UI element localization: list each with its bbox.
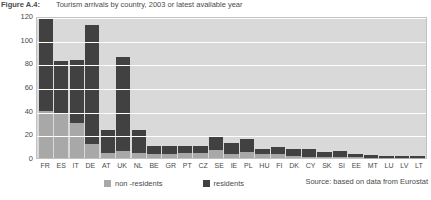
bar-segment-non-residents[interactable] <box>132 153 146 158</box>
non-residents-swatch <box>104 180 111 187</box>
bar-segment-non-residents[interactable] <box>147 154 161 158</box>
x-tick-label: NL <box>131 161 146 173</box>
y-tick-label: 100 <box>20 37 33 45</box>
x-tick-label: BE <box>147 161 162 173</box>
bar-segment-residents[interactable] <box>271 147 285 154</box>
page-title: Tourism arrivals by country, 2003 or lat… <box>56 0 243 10</box>
x-tick-label: CY <box>303 161 318 173</box>
bar-segment-non-residents[interactable] <box>70 123 84 159</box>
bar-segment-residents[interactable] <box>85 25 99 143</box>
bar-segment-non-residents[interactable] <box>240 152 254 158</box>
y-tick-label: 80 <box>25 60 33 68</box>
y-tick-label: 120 <box>20 13 33 21</box>
chart-legend: non -residentsresidents <box>104 177 284 189</box>
bar-segment-non-residents[interactable] <box>162 154 176 158</box>
x-tick-label: PL <box>241 161 255 173</box>
y-tick-label: 40 <box>25 108 33 116</box>
x-tick-label: FR <box>38 161 53 173</box>
bar-segment-non-residents[interactable] <box>224 154 238 158</box>
bar-segment-non-residents[interactable] <box>85 144 99 158</box>
y-tick-label: 60 <box>25 84 33 92</box>
legend-label: residents <box>214 179 244 188</box>
residents-swatch <box>203 180 210 187</box>
bar-segment-non-residents[interactable] <box>255 154 269 158</box>
legend-item-residents[interactable]: residents <box>203 179 244 188</box>
y-tick-label: 0 <box>29 155 33 163</box>
plot-area <box>36 17 427 159</box>
bar-segment-residents[interactable] <box>240 139 254 152</box>
x-tick-label: ES <box>54 161 69 173</box>
figure-container: Figure A.4: Tourism arrivals by country,… <box>0 0 431 200</box>
x-tick-label: AT <box>99 161 113 173</box>
x-tick-label: SK <box>319 161 334 173</box>
bar-segment-non-residents[interactable] <box>101 153 115 158</box>
bar-segment-non-residents[interactable] <box>333 157 347 158</box>
x-tick-label: EE <box>349 161 364 173</box>
x-tick-label: HU <box>257 161 273 173</box>
bar-segment-residents[interactable] <box>302 149 316 157</box>
bar-segment-non-residents[interactable] <box>178 153 192 158</box>
bar-segment-non-residents[interactable] <box>116 151 130 158</box>
bar-segment-residents[interactable] <box>286 149 300 156</box>
x-tick-label: SE <box>212 161 227 173</box>
source-note: Source: based on data from Eurostat <box>305 177 428 186</box>
x-tick-label: LV <box>398 161 412 173</box>
gridline <box>37 18 426 19</box>
x-tick-label: SI <box>335 161 347 173</box>
gridline <box>37 89 426 90</box>
y-tick-label: 20 <box>25 131 33 139</box>
bar-segment-residents[interactable] <box>101 130 115 154</box>
bar-segment-residents[interactable] <box>209 136 223 150</box>
bar-segment-residents[interactable] <box>162 146 176 154</box>
x-tick-label: IT <box>70 161 82 173</box>
bar-segment-non-residents[interactable] <box>209 150 223 158</box>
bar-segment-residents[interactable] <box>147 146 161 154</box>
x-tick-label: IE <box>228 161 240 173</box>
bar-segment-residents[interactable] <box>178 146 192 153</box>
x-tick-label: PT <box>180 161 195 173</box>
bar-segment-non-residents[interactable] <box>39 111 53 158</box>
bar-segment-non-residents[interactable] <box>193 153 207 158</box>
x-tick-label: MT <box>365 161 381 173</box>
chart: number 120100806040200 FRESITDEATUKNLBEG… <box>0 13 431 173</box>
figure-caption: Figure A.4: Tourism arrivals by country,… <box>0 0 431 13</box>
figure-number: Figure A.4: <box>1 0 40 10</box>
bar-segment-non-residents[interactable] <box>317 157 331 158</box>
bar-segment-residents[interactable] <box>54 61 68 114</box>
legend-item-non-residents[interactable]: non -residents <box>104 179 163 188</box>
x-tick-label: LU <box>382 161 397 173</box>
bar-segment-residents[interactable] <box>224 143 238 155</box>
y-axis-ticks: 120100806040200 <box>12 13 33 163</box>
x-axis-labels: FRESITDEATUKNLBEGRPTCZSEIEPLHUFIDKCYSKSI… <box>36 161 427 173</box>
bar-segment-residents[interactable] <box>193 146 207 153</box>
x-tick-label: LT <box>412 161 425 173</box>
gridline <box>37 42 426 43</box>
legend-label: non -residents <box>115 179 163 188</box>
x-tick-label: DK <box>286 161 301 173</box>
x-tick-label: UK <box>114 161 129 173</box>
x-tick-label: GR <box>163 161 179 173</box>
x-tick-label: CZ <box>196 161 211 173</box>
gridline <box>37 65 426 66</box>
bar-segment-residents[interactable] <box>132 130 146 154</box>
bar-segment-non-residents[interactable] <box>286 156 300 158</box>
bar-segment-non-residents[interactable] <box>302 157 316 158</box>
bar-segment-non-residents[interactable] <box>348 157 362 158</box>
bar-segment-non-residents[interactable] <box>271 154 285 158</box>
gridline <box>37 113 426 114</box>
x-tick-label: FI <box>273 161 285 173</box>
gridline <box>37 136 426 137</box>
x-tick-label: DE <box>83 161 98 173</box>
